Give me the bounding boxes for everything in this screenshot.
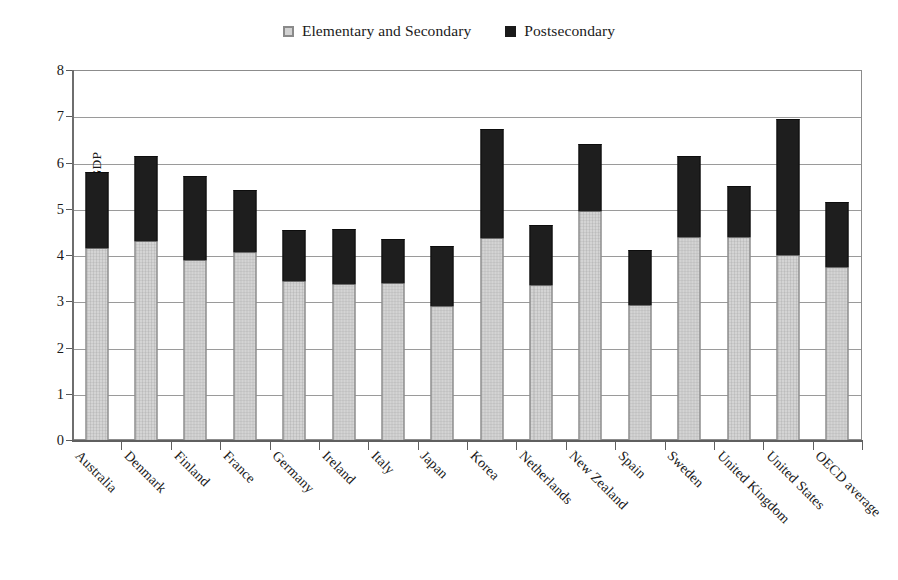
y-axis-tick-label: 4: [4, 247, 64, 264]
bar-segment-elementary: [381, 283, 404, 440]
x-axis-tick-label: Italy: [368, 448, 398, 478]
bar-segment-postsecondary: [826, 202, 849, 267]
bar-segment-elementary: [480, 238, 503, 440]
bar-group: [665, 70, 714, 440]
bar-segment-elementary: [727, 237, 750, 440]
bar-segment-elementary: [579, 211, 602, 440]
bar-segment-elementary: [85, 248, 108, 440]
bar-segment-elementary: [184, 260, 207, 440]
x-axis-tick-labels: AustraliaDenmarkFinlandFranceGermanyIrel…: [72, 448, 862, 578]
stacked-bar: [678, 156, 701, 440]
bar-group: [566, 70, 615, 440]
y-axis-tick-labels: 012345678: [0, 0, 64, 580]
y-axis-tick-label: 0: [4, 432, 64, 449]
bar-group: [516, 70, 565, 440]
bar-segment-postsecondary: [283, 230, 306, 282]
bar-group: [418, 70, 467, 440]
stacked-bar: [283, 230, 306, 440]
bars-layer: [72, 70, 862, 440]
bar-segment-postsecondary: [184, 176, 207, 259]
bar-segment-postsecondary: [628, 250, 651, 304]
legend-swatch-postsecondary-icon: [505, 26, 516, 37]
stacked-bar: [579, 144, 602, 440]
bar-segment-elementary: [332, 284, 355, 440]
stacked-bar: [135, 156, 158, 440]
chart-container: Elementary and Secondary Postsecondary 0…: [0, 0, 898, 580]
x-axis-tick-label: Sweden: [664, 448, 707, 491]
bar-segment-elementary: [431, 306, 454, 440]
bar-segment-postsecondary: [776, 119, 799, 255]
y-axis-tick-label: 1: [4, 385, 64, 402]
bar-segment-postsecondary: [135, 156, 158, 242]
y-axis-tick-label: 7: [4, 108, 64, 125]
bar-group: [368, 70, 417, 440]
stacked-bar: [431, 246, 454, 440]
bar-group: [121, 70, 170, 440]
bar-group: [319, 70, 368, 440]
x-axis-tick-label: Spain: [615, 448, 649, 482]
x-axis-tick-label: Ireland: [318, 448, 358, 488]
x-axis-tick-label: Korea: [467, 448, 503, 484]
chart-legend: Elementary and Secondary Postsecondary: [0, 22, 898, 40]
legend-label-postsecondary: Postsecondary: [524, 22, 615, 40]
x-axis-tick-label: France: [220, 448, 259, 487]
bar-group: [813, 70, 862, 440]
stacked-bar: [628, 250, 651, 440]
bar-segment-postsecondary: [233, 190, 256, 252]
legend-entry-elementary-and-secondary: Elementary and Secondary: [283, 22, 471, 40]
stacked-bar: [480, 129, 503, 440]
bar-segment-elementary: [628, 305, 651, 441]
bar-segment-postsecondary: [579, 144, 602, 211]
bar-group: [763, 70, 812, 440]
x-axis-tick-label: Denmark: [121, 448, 170, 497]
bar-segment-postsecondary: [678, 156, 701, 237]
legend-entry-postsecondary: Postsecondary: [505, 22, 615, 40]
stacked-bar: [776, 119, 799, 440]
x-axis-tick-label: Germany: [269, 448, 318, 497]
bar-segment-elementary: [776, 255, 799, 440]
y-axis-tick-label: 6: [4, 154, 64, 171]
stacked-bar: [184, 176, 207, 440]
bar-group: [171, 70, 220, 440]
bar-group: [467, 70, 516, 440]
stacked-bar: [530, 225, 553, 440]
bar-group: [270, 70, 319, 440]
bar-segment-postsecondary: [332, 229, 355, 284]
stacked-bar: [381, 239, 404, 440]
x-axis-tick-label: Japan: [417, 448, 451, 482]
bar-segment-elementary: [135, 241, 158, 440]
x-axis-tick-label: Finland: [170, 448, 212, 490]
y-axis-tick-label: 8: [4, 62, 64, 79]
bar-group: [615, 70, 664, 440]
bar-group: [714, 70, 763, 440]
y-axis-tick-label: 3: [4, 293, 64, 310]
x-axis-tick-label: Australia: [72, 448, 120, 496]
x-axis-tick-label: OECD average: [812, 448, 884, 520]
y-axis-tick-label: 2: [4, 339, 64, 356]
x-axis-tick: [862, 441, 863, 450]
stacked-bar: [826, 202, 849, 440]
bar-segment-elementary: [826, 267, 849, 440]
legend-label-elementary: Elementary and Secondary: [302, 22, 471, 40]
bar-segment-postsecondary: [431, 246, 454, 306]
bar-segment-elementary: [530, 285, 553, 440]
bar-segment-postsecondary: [381, 239, 404, 283]
y-axis-tick-label: 5: [4, 200, 64, 217]
stacked-bar: [85, 172, 108, 440]
bar-segment-postsecondary: [530, 225, 553, 285]
stacked-bar: [233, 190, 256, 440]
bar-segment-elementary: [283, 281, 306, 440]
bar-segment-elementary: [233, 252, 256, 440]
bar-group: [220, 70, 269, 440]
bar-segment-postsecondary: [480, 129, 503, 238]
bar-segment-elementary: [678, 237, 701, 441]
bar-segment-postsecondary: [85, 172, 108, 248]
bar-segment-postsecondary: [727, 186, 750, 238]
legend-swatch-elementary-icon: [283, 26, 294, 37]
bar-group: [72, 70, 121, 440]
stacked-bar: [332, 229, 355, 440]
stacked-bar: [727, 186, 750, 440]
